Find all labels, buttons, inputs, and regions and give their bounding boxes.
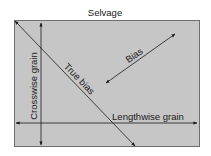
lengthwise-grain-label: Lengthwise grain	[112, 111, 184, 122]
fabric-grain-diagram: Selvage Crosswise grain Lengthwise grain…	[0, 0, 211, 156]
crosswise-grain-label: Crosswise grain	[28, 52, 39, 120]
fabric-rectangle	[15, 21, 200, 147]
selvage-label: Selvage	[88, 7, 122, 18]
